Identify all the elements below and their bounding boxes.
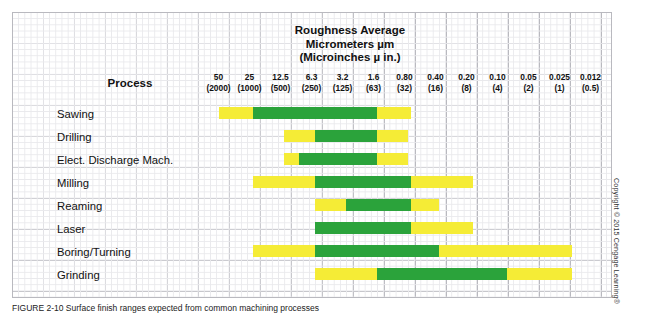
bar-segment-typical bbox=[253, 107, 377, 119]
bar-segment-less-frequent-right bbox=[411, 222, 473, 234]
bar-segment-typical bbox=[315, 176, 411, 188]
bar-segment-typical bbox=[299, 153, 377, 165]
process-row: Laser bbox=[0, 220, 654, 243]
tick-microinches: (0.5) bbox=[575, 83, 606, 94]
bar-segment-less-frequent-right bbox=[377, 107, 411, 119]
axis-tick-25: 25(1000) bbox=[234, 72, 265, 96]
process-label: Laser bbox=[57, 223, 85, 235]
bar-segment-less-frequent-right bbox=[439, 245, 572, 257]
process-row: Grinding bbox=[0, 266, 654, 289]
roughness-bar bbox=[203, 266, 623, 283]
tick-microinches: (32) bbox=[389, 83, 420, 94]
roughness-bar bbox=[203, 174, 623, 191]
figure-caption: FIGURE 2-10 Surface finish ranges expect… bbox=[12, 303, 612, 313]
process-rows: SawingDrillingElect. Discharge Mach.Mill… bbox=[0, 105, 654, 289]
axis-tick-0.012: 0.012(0.5) bbox=[575, 72, 606, 96]
tick-micrometers: 0.10 bbox=[482, 72, 513, 83]
bar-segment-less-frequent-right bbox=[411, 199, 439, 211]
tick-micrometers: 0.20 bbox=[451, 72, 482, 83]
tick-microinches: (16) bbox=[420, 83, 451, 94]
process-label: Milling bbox=[57, 177, 89, 189]
bar-segment-less-frequent-right bbox=[411, 176, 473, 188]
bar-segment-typical bbox=[377, 268, 507, 280]
axis-tick-0.20: 0.20(8) bbox=[451, 72, 482, 96]
axis-tick-0.80: 0.80(32) bbox=[389, 72, 420, 96]
roughness-bar bbox=[203, 220, 623, 237]
roughness-bar bbox=[203, 197, 623, 214]
process-label: Sawing bbox=[57, 108, 94, 120]
tick-microinches: (1000) bbox=[234, 83, 265, 94]
axis-tick-1.6: 1.6(63) bbox=[358, 72, 389, 96]
bar-segment-less-frequent-left bbox=[284, 153, 300, 165]
bar-segment-less-frequent-right bbox=[377, 130, 408, 142]
process-row: Elect. Discharge Mach. bbox=[0, 151, 654, 174]
axis-tick-0.10: 0.10(4) bbox=[482, 72, 513, 96]
tick-micrometers: 1.6 bbox=[358, 72, 389, 83]
process-label: Boring/Turning bbox=[57, 246, 131, 258]
tick-microinches: (63) bbox=[358, 83, 389, 94]
process-row: Drilling bbox=[0, 128, 654, 151]
bar-segment-less-frequent-right bbox=[377, 153, 408, 165]
process-row: Boring/Turning bbox=[0, 243, 654, 266]
roughness-bar bbox=[203, 128, 623, 145]
tick-micrometers: 50 bbox=[203, 72, 234, 83]
tick-microinches: (2000) bbox=[203, 83, 234, 94]
axis-tick-6.3: 6.3(250) bbox=[296, 72, 327, 96]
roughness-bar bbox=[203, 243, 623, 260]
tick-microinches: (4) bbox=[482, 83, 513, 94]
bar-segment-less-frequent-right bbox=[507, 268, 572, 280]
process-label: Grinding bbox=[57, 269, 100, 281]
bar-segment-typical bbox=[315, 245, 439, 257]
roughness-axis: 50(2000)25(1000)12.5(500)6.3(250)3.2(125… bbox=[203, 72, 623, 96]
figure-surface-roughness-chart: Roughness Average Micrometers µm (Microi… bbox=[0, 0, 654, 315]
process-column-header: Process bbox=[60, 77, 200, 89]
tick-microinches: (8) bbox=[451, 83, 482, 94]
roughness-bar bbox=[203, 105, 623, 122]
chart-title: Roughness Average Micrometers µm (Microi… bbox=[225, 24, 475, 65]
tick-micrometers: 0.012 bbox=[575, 72, 606, 83]
tick-micrometers: 0.025 bbox=[544, 72, 575, 83]
process-row: Sawing bbox=[0, 105, 654, 128]
tick-microinches: (125) bbox=[327, 83, 358, 94]
bar-segment-less-frequent-left bbox=[315, 268, 377, 280]
process-label: Drilling bbox=[57, 131, 92, 143]
process-row: Reaming bbox=[0, 197, 654, 220]
bar-segment-less-frequent-left bbox=[284, 130, 315, 142]
tick-microinches: (500) bbox=[265, 83, 296, 94]
tick-micrometers: 25 bbox=[234, 72, 265, 83]
axis-tick-3.2: 3.2(125) bbox=[327, 72, 358, 96]
tick-microinches: (250) bbox=[296, 83, 327, 94]
tick-micrometers: 6.3 bbox=[296, 72, 327, 83]
roughness-bar bbox=[203, 151, 623, 168]
tick-microinches: (1) bbox=[544, 83, 575, 94]
axis-tick-0.40: 0.40(16) bbox=[420, 72, 451, 96]
bar-segment-typical bbox=[346, 199, 411, 211]
axis-tick-0.025: 0.025(1) bbox=[544, 72, 575, 96]
axis-tick-12.5: 12.5(500) bbox=[265, 72, 296, 96]
copyright-notice: Copyright © 2015 Cengage Learning® bbox=[612, 178, 621, 308]
bar-segment-less-frequent-left bbox=[253, 245, 315, 257]
axis-tick-0.05: 0.05(2) bbox=[513, 72, 544, 96]
process-label: Reaming bbox=[57, 200, 102, 212]
tick-microinches: (2) bbox=[513, 83, 544, 94]
bar-segment-less-frequent-left bbox=[219, 107, 253, 119]
bar-segment-less-frequent-left bbox=[315, 199, 346, 211]
bar-segment-less-frequent-left bbox=[253, 176, 315, 188]
process-row: Milling bbox=[0, 174, 654, 197]
tick-micrometers: 0.80 bbox=[389, 72, 420, 83]
axis-tick-50: 50(2000) bbox=[203, 72, 234, 96]
tick-micrometers: 12.5 bbox=[265, 72, 296, 83]
bar-segment-typical bbox=[315, 222, 411, 234]
tick-micrometers: 0.40 bbox=[420, 72, 451, 83]
process-label: Elect. Discharge Mach. bbox=[57, 154, 173, 166]
tick-micrometers: 0.05 bbox=[513, 72, 544, 83]
bar-segment-typical bbox=[315, 130, 377, 142]
tick-micrometers: 3.2 bbox=[327, 72, 358, 83]
